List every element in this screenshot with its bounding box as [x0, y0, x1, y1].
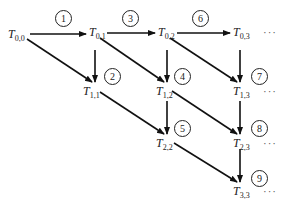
node-symbol: T [233, 184, 240, 198]
node-subscript: 0,0 [15, 34, 25, 43]
step-number-circle: 4 [174, 68, 191, 85]
node-subscript: 2,2 [163, 143, 173, 152]
node-symbol: T [89, 25, 96, 39]
node-T13: T1,3 [233, 85, 250, 102]
node-T03: T0,3 [233, 26, 250, 43]
node-symbol: T [158, 25, 165, 39]
step-number-circle: 5 [174, 120, 191, 137]
step-number-circle: 6 [192, 10, 209, 27]
node-symbol: T [233, 136, 240, 150]
step-number-circle: 1 [55, 10, 72, 27]
node-symbol: T [83, 84, 90, 98]
node-symbol: T [233, 84, 240, 98]
node-symbol: T [233, 25, 240, 39]
node-T01: T0,1 [89, 26, 106, 43]
node-T12: T1,2 [156, 85, 173, 102]
arrow-T11-T22 [100, 92, 164, 134]
node-T33: T3,3 [233, 185, 250, 202]
continuation-ellipsis: ··· [263, 85, 277, 97]
arrow-T00-T11 [27, 39, 92, 82]
continuation-ellipsis: ··· [263, 26, 277, 38]
node-symbol: T [156, 136, 163, 150]
node-subscript: 0,2 [165, 32, 175, 41]
step-number-circle: 2 [104, 68, 121, 85]
step-number-circle: 3 [122, 10, 139, 27]
node-subscript: 1,3 [240, 91, 250, 100]
node-subscript: 2,3 [240, 143, 250, 152]
node-symbol: T [156, 84, 163, 98]
step-number-circle: 8 [251, 120, 268, 137]
node-T22: T2,2 [156, 137, 173, 154]
node-symbol: T [8, 27, 15, 41]
node-T11: T1,1 [83, 85, 100, 102]
node-T00: T0,0 [8, 28, 25, 45]
step-number-circle: 7 [251, 68, 268, 85]
continuation-ellipsis: ··· [263, 137, 277, 149]
node-subscript: 1,2 [163, 91, 173, 100]
node-subscript: 0,1 [96, 32, 106, 41]
continuation-ellipsis: ··· [263, 185, 277, 197]
arrow-T22-T33 [174, 143, 237, 182]
node-subscript: 0,3 [240, 32, 250, 41]
node-subscript: 3,3 [240, 191, 250, 200]
node-subscript: 1,1 [90, 91, 100, 100]
node-T02: T0,2 [158, 26, 175, 43]
node-T23: T2,3 [233, 137, 250, 154]
